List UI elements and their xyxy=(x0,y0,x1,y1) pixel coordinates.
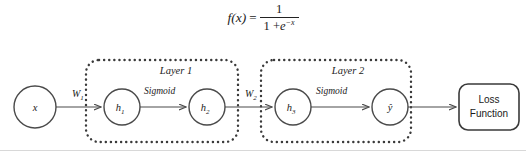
weight-label-w2: W2 xyxy=(245,88,257,102)
layer-2-label: Layer 2 xyxy=(331,65,365,76)
node-yhat-label: ŷ xyxy=(387,102,393,113)
layer-1-label: Layer 1 xyxy=(159,65,192,76)
node-input-label: x xyxy=(32,102,38,113)
activation-label-sigmoid-2: Sigmoid xyxy=(316,86,347,96)
network-diagram: x h1 h2 h3 ŷ W1 W2 Sigmoid Sigmoid Layer… xyxy=(0,0,526,151)
loss-function-box[interactable] xyxy=(459,84,519,130)
activation-label-sigmoid-1: Sigmoid xyxy=(144,86,175,96)
loss-function-node[interactable]: Loss Function xyxy=(459,84,519,130)
loss-function-line2: Function xyxy=(470,108,508,119)
weight-label-w1: W1 xyxy=(72,88,84,102)
loss-function-line1: Loss xyxy=(478,94,499,105)
figure-canvas: f(x)=11 +e−x x h1 h2 xyxy=(0,0,526,151)
